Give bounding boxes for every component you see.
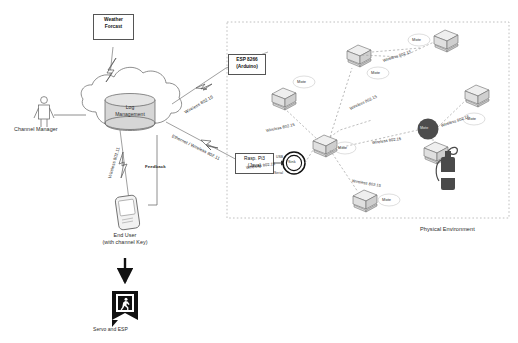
channel-manager-label: Channel Manager <box>14 126 58 133</box>
weather-forecast-label-line1: Weather <box>104 17 123 22</box>
mote-icon-2 <box>347 45 371 67</box>
mote-label-2: Mote <box>371 70 380 75</box>
end-user-phone <box>115 195 140 231</box>
feedback-link <box>148 135 157 205</box>
end-user-line2: (with channel Key) <box>102 239 147 245</box>
mote-icon-1 <box>272 88 296 110</box>
log-management-line2: Management <box>115 111 145 117</box>
servo-esp-exit-sign <box>112 291 138 327</box>
end-user-label: End User (with channel Key) <box>87 232 163 247</box>
log-management-line1: Log <box>126 104 135 110</box>
serial-label: Serial <box>274 171 283 176</box>
diagram-canvas: Weather Forcast Log Management Channel M… <box>0 0 518 343</box>
usb-label: USB <box>276 155 283 160</box>
mote-label-3: Mote <box>412 37 421 42</box>
mote-icon-6 <box>353 190 377 212</box>
esp8266-line1: ESP 8266 <box>236 57 258 62</box>
log-management-label: Log Management <box>106 104 154 118</box>
physical-environment-label: Physical Environment <box>420 226 475 234</box>
mote-icon-4 <box>465 85 489 107</box>
esp8266-line2: (Arduino) <box>236 64 258 69</box>
esp8266-box[interactable]: ESP 8266 (Arduino) <box>228 54 266 75</box>
mote-icon-3 <box>434 30 458 52</box>
mote-label-1: Mote <box>297 79 306 84</box>
channel-manager-figure <box>34 97 54 127</box>
mote-label-7: Mote <box>420 126 428 131</box>
mesh-links <box>284 42 468 192</box>
rasppi-line1: Rasp. Pi3 <box>244 156 265 161</box>
end-user-line1: End User <box>114 232 137 238</box>
link-label-feedback: Feedback <box>145 164 166 170</box>
servo-esp-label: Servo and ESP <box>93 326 128 333</box>
weather-forecast-label-line2: Forcast <box>105 24 122 29</box>
mote-label-6: Mote <box>382 197 391 202</box>
sink-label: Sink <box>288 160 296 165</box>
weather-forecast-box[interactable]: Weather Forcast <box>93 14 134 40</box>
mote-icon-5 <box>313 135 337 157</box>
cloud-enduser-link <box>119 130 129 200</box>
mote-label-5: Mote <box>338 145 347 150</box>
